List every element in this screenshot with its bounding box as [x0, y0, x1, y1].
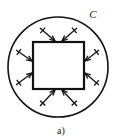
figure-panel: C a) — [0, 0, 122, 140]
arrow-bottom-left-shaft — [40, 90, 55, 106]
arrow-bottom-right — [62, 90, 77, 106]
arrow-right-bottom — [85, 73, 99, 86]
figure-svg: C a) — [0, 0, 122, 140]
arrow-right-top — [85, 49, 99, 61]
arrow-top-right — [62, 28, 77, 41]
figure-caption: a) — [57, 125, 65, 137]
arrow-top-left — [40, 28, 55, 41]
arrow-bottom-left — [40, 90, 55, 106]
arrow-left-top-tick — [17, 49, 21, 55]
arrow-left-bottom — [16, 73, 32, 86]
contour-label-c: C — [89, 8, 97, 20]
arrow-bottom-right-shaft — [62, 90, 77, 106]
arrow-left-top — [16, 49, 32, 61]
arrow-left-bottom-tick — [17, 80, 21, 86]
inner-square — [33, 42, 84, 89]
